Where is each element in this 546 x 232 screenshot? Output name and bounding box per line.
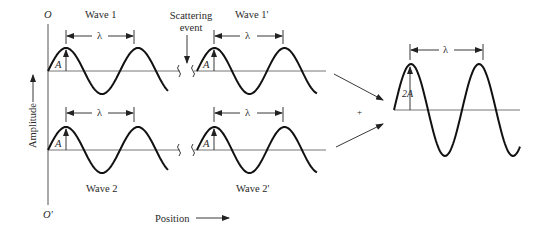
wave-2: Wave 2 λ A (48, 107, 180, 194)
wave-2-prime: Wave 2' λ A (194, 107, 326, 194)
wave-1-prime-amplitude-label: A (202, 59, 210, 70)
wave-2-prime-wavelength-marker: λ (214, 107, 283, 122)
origin-top-label: O (44, 9, 52, 20)
wave-2-prime-title: Wave 2' (236, 183, 270, 194)
wave-1: Wave 1 λ A (48, 9, 180, 94)
wave-1-prime-lambda: λ (245, 30, 251, 41)
combined-wavelength-marker: λ (410, 44, 483, 60)
interference-diagram: O O' Amplitude Position Scattering event… (0, 0, 546, 232)
wave-1-prime-title: Wave 1' (235, 9, 269, 20)
wave-1-lambda: λ (97, 30, 103, 41)
wave-2-amplitude-label: A (54, 138, 62, 149)
plus-sign: + (357, 107, 362, 117)
scattering-label-2: event (180, 22, 203, 33)
combined-wave: λ 2A (394, 44, 520, 156)
wave-2-lambda: λ (97, 107, 103, 118)
wave-2-prime-amplitude-label: A (202, 138, 210, 149)
position-axis-label: Position (155, 213, 190, 224)
scattering-label: Scattering (170, 10, 213, 21)
wave-1-title: Wave 1 (85, 9, 117, 20)
amplitude-axis-label: Amplitude (27, 103, 38, 148)
combined-amplitude-label: 2A (402, 88, 414, 99)
wave-2-wavelength-marker: λ (66, 107, 134, 122)
combined-lambda: λ (443, 44, 449, 55)
wave-1-wavelength-marker: λ (66, 30, 134, 44)
wave-2-title: Wave 2 (86, 183, 118, 194)
origin-bottom-label: O' (43, 209, 54, 220)
break-marks (178, 65, 195, 156)
wave-1-amplitude-label: A (54, 59, 62, 70)
wave-1-prime: Wave 1' λ A (194, 9, 326, 94)
wave-1-prime-wavelength-marker: λ (214, 30, 283, 44)
combine-arrow-lower-icon (336, 124, 383, 147)
wave-2-prime-lambda: λ (245, 107, 251, 118)
combine-arrow-upper-icon (334, 74, 383, 100)
